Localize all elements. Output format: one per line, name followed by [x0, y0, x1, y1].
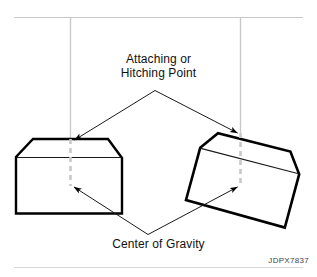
attaching-point-label-line1: Attaching or	[0, 52, 317, 66]
figure-container: Attaching or Hitching Point Center of Gr…	[0, 0, 317, 277]
attaching-point-label-line2: Hitching Point	[0, 66, 317, 80]
attaching-point-label: Attaching or Hitching Point	[0, 52, 317, 80]
diagram-canvas	[0, 0, 317, 277]
center-of-gravity-label: Center of Gravity	[0, 237, 317, 251]
level-crate-outline	[16, 139, 122, 214]
figure-code: JDPX7837	[268, 256, 309, 265]
level-crate	[16, 139, 122, 214]
